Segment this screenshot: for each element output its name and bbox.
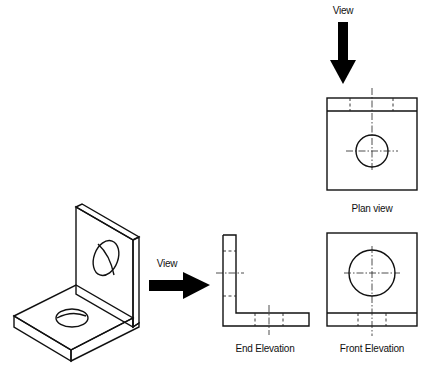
end-elevation-label: End Elevation xyxy=(235,343,294,354)
plan-view xyxy=(327,88,417,190)
base-hole xyxy=(56,309,88,327)
side-view-arrow-icon xyxy=(149,272,210,299)
vertical-hole xyxy=(89,237,124,279)
top-view-label: View xyxy=(333,5,354,16)
side-view-label: View xyxy=(157,258,178,269)
isometric-bracket xyxy=(14,204,139,361)
drawing-canvas xyxy=(0,0,429,374)
top-view-arrow-icon xyxy=(330,22,356,84)
front-elevation xyxy=(327,233,417,336)
front-elevation-label: Front Elevation xyxy=(340,343,404,354)
plan-view-label: Plan view xyxy=(352,203,393,214)
end-elevation xyxy=(216,235,309,335)
